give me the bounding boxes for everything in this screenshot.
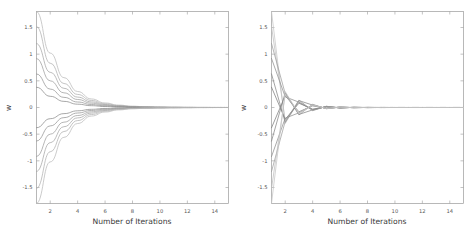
chart-svg-left: 2468101214 1.510.50-0.5-1-1.5 Number of … [0,0,235,243]
y-tick-label: -0.5 [257,131,267,137]
x-tick-label: 6 [103,208,106,214]
y-tick-label: 0.5 [259,78,267,84]
series-line [272,92,464,204]
y-tick-label: 1 [29,51,32,57]
x-tick-label: 10 [157,208,164,214]
x-tick-label: 10 [392,208,399,214]
series-line [37,58,229,107]
series-line [37,74,229,108]
series-line [272,12,464,124]
y-tick-label: -1.5 [257,184,267,190]
y-axis-title-right: w [239,105,248,111]
data-series-group-left [37,12,229,204]
x-tick-label: 12 [419,208,426,214]
x-tick-label: 2 [284,208,287,214]
x-axis-title-left: Number of Iterations [93,217,172,226]
series-line [37,26,229,107]
x-tick-label: 2 [49,208,52,214]
y-tick-label: 0 [29,104,32,110]
y-tick-label: -1.5 [22,184,32,190]
chart-svg-right: 2468101214 1.510.50-0.5-1-1.5 Number of … [235,0,470,243]
y-tick-label: 0 [264,104,267,110]
series-line [272,95,464,189]
chart-panel-right: 2468101214 1.510.50-0.5-1-1.5 Number of … [235,0,470,243]
x-tick-label: 4 [76,208,80,214]
y-tick-label: -1 [27,158,32,164]
figure-canvas: 2468101214 1.510.50-0.5-1-1.5 Number of … [0,0,470,243]
x-tick-label: 4 [311,208,315,214]
y-tick-labels-right: 1.510.50-0.5-1-1.5 [257,24,267,190]
series-line [272,44,464,115]
series-line [37,108,229,157]
x-tick-label: 14 [211,208,218,214]
series-line [272,100,464,171]
y-tick-label: -0.5 [22,131,32,137]
x-tick-label: 8 [366,208,369,214]
chart-panel-left: 2468101214 1.510.50-0.5-1-1.5 Number of … [0,0,235,243]
x-tick-labels-right: 2468101214 [284,208,454,214]
y-tick-labels-left: 1.510.50-0.5-1-1.5 [22,24,32,190]
x-tick-label: 14 [446,208,453,214]
series-line [272,93,464,142]
y-tick-label: -1 [262,158,267,164]
series-line [37,44,229,108]
series-line [37,108,229,172]
series-line [37,108,229,142]
x-tick-label: 6 [338,208,341,214]
x-tick-labels-left: 2468101214 [49,208,219,214]
x-axis-title-right: Number of Iterations [328,217,407,226]
y-tick-label: 0.5 [24,78,32,84]
x-tick-label: 12 [184,208,191,214]
series-line [272,74,464,123]
series-line [272,26,464,120]
y-axis-title-left: w [4,105,13,111]
data-series-group-right [272,12,464,204]
x-tick-label: 8 [131,208,134,214]
series-line [37,108,229,189]
y-tick-label: 1.5 [259,24,267,30]
y-tick-label: 1 [264,51,267,57]
y-tick-label: 1.5 [24,24,32,30]
